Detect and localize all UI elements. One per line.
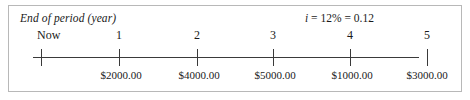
period-label-now: Now	[37, 28, 97, 43]
period-label-3: 3	[243, 28, 303, 43]
cash-flow-diagram: End of period (year) i = 12% = 0.12 Now …	[8, 5, 462, 92]
tick-mark	[119, 49, 120, 66]
tick-mark	[41, 49, 42, 66]
tick-mark	[273, 49, 274, 66]
cash-flow-label-1: $2000.00	[76, 69, 166, 81]
tick-mark	[197, 49, 198, 66]
period-label-2: 2	[167, 28, 227, 43]
period-label-1: 1	[89, 28, 149, 43]
timeline: Now 1 $2000.00 2 $4000.00 3 $5000.00 4 $…	[9, 6, 461, 91]
timeline-axis	[33, 57, 419, 58]
tick-mark	[427, 49, 428, 66]
period-label-5: 5	[397, 28, 457, 43]
period-label-4: 4	[320, 28, 380, 43]
tick-mark	[350, 49, 351, 66]
cash-flow-label-5: $3000.00	[382, 69, 470, 81]
